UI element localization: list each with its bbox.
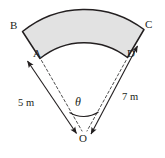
annulus-sector-figure: B C A D O θ 5 m 7 m (0, 0, 165, 158)
vertex-label-d: D (127, 48, 135, 59)
vertex-label-o: O (79, 133, 87, 144)
vertex-label-a: A (33, 48, 41, 59)
inner-radius-label: 5 m (18, 98, 34, 109)
dimension-line-inner-radius (28, 61, 77, 134)
radius-guide-OD (87, 61, 126, 132)
vertex-label-b: B (10, 20, 17, 31)
central-angle-arc (70, 112, 99, 116)
vertex-label-c: C (145, 19, 152, 30)
central-angle-label: θ (75, 96, 81, 108)
outer-radius-label: 7 m (122, 92, 138, 103)
dimension-line-outer-radius (91, 46, 138, 134)
